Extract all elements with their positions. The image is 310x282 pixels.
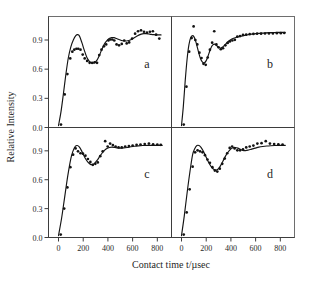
data-point	[201, 151, 204, 154]
data-point	[213, 30, 216, 33]
y-tick-label: 0.6	[33, 65, 43, 74]
data-point	[100, 48, 103, 51]
data-point	[98, 54, 101, 57]
panel-frame-d	[172, 128, 295, 238]
data-point	[89, 161, 92, 164]
data-point	[115, 43, 118, 46]
data-point	[245, 33, 248, 36]
data-point	[123, 39, 126, 42]
data-point	[79, 152, 82, 155]
data-point	[239, 149, 242, 152]
data-point	[242, 148, 245, 151]
data-point	[140, 29, 143, 32]
data-point	[60, 123, 63, 126]
tick-group: 020040060080002004006008000.00.30.60.90.…	[33, 36, 287, 253]
data-point	[155, 33, 158, 36]
data-point	[226, 152, 229, 155]
panel-label-a: a	[144, 57, 150, 71]
y-tick-label: 0.0	[33, 234, 43, 243]
data-point	[79, 48, 82, 51]
data-point	[264, 32, 267, 35]
figure-container: 020040060080002004006008000.00.30.60.90.…	[0, 0, 310, 282]
data-point	[185, 85, 188, 88]
data-point	[252, 144, 255, 147]
data-point	[63, 207, 66, 210]
data-point	[91, 62, 94, 65]
data-point	[159, 144, 162, 147]
data-point	[239, 35, 242, 38]
data-point	[234, 38, 237, 41]
data-point	[228, 147, 231, 150]
data-point	[200, 57, 203, 60]
data-point	[143, 30, 146, 33]
data-point	[128, 41, 131, 44]
data-point	[104, 140, 107, 143]
data-point	[248, 33, 251, 36]
y-tick-label: 0.6	[33, 176, 43, 185]
x-tick-label: 400	[225, 244, 237, 253]
point-group	[59, 25, 285, 236]
data-point	[124, 145, 127, 148]
data-point	[87, 158, 90, 161]
y-tick-label: 0.9	[33, 147, 43, 156]
data-point	[185, 211, 188, 214]
data-point	[206, 56, 209, 59]
data-point	[93, 61, 96, 64]
data-point	[152, 143, 155, 146]
data-point	[82, 152, 85, 155]
data-point	[81, 53, 84, 56]
data-point	[74, 147, 77, 150]
data-point	[245, 146, 248, 149]
data-point	[252, 33, 255, 36]
data-point	[188, 50, 191, 53]
x-axis-title: Contact time t/µsec	[132, 259, 211, 270]
data-point	[231, 145, 234, 148]
data-point	[128, 145, 131, 148]
data-point	[109, 142, 112, 145]
data-point	[117, 146, 120, 149]
data-point	[196, 149, 199, 152]
x-tick-label: 400	[102, 244, 114, 253]
data-point	[148, 142, 151, 145]
data-point	[182, 233, 185, 236]
data-point	[146, 31, 149, 34]
data-point	[248, 145, 251, 148]
data-point	[211, 41, 214, 44]
data-point	[236, 35, 239, 38]
data-point	[120, 146, 123, 149]
data-point	[276, 32, 279, 35]
data-point	[96, 62, 99, 65]
data-point	[72, 153, 75, 156]
data-point	[125, 42, 128, 45]
y-tick-label: 0.0	[33, 124, 43, 133]
data-point	[83, 57, 86, 60]
data-point	[118, 44, 121, 47]
x-tick-label: 200	[200, 244, 212, 253]
data-point	[264, 140, 267, 143]
data-point	[131, 144, 134, 147]
x-tick-label: 0	[180, 244, 184, 253]
data-point	[106, 145, 109, 148]
data-point	[152, 30, 155, 33]
data-point	[273, 143, 276, 146]
data-point	[233, 147, 236, 150]
data-point	[209, 48, 212, 51]
data-point	[222, 47, 225, 50]
data-point	[112, 144, 115, 147]
panel-frame-a	[49, 17, 172, 128]
data-point	[218, 167, 221, 170]
fit-curve-c	[59, 145, 163, 235]
x-tick-label: 200	[77, 244, 89, 253]
data-point	[94, 162, 97, 165]
data-point	[188, 188, 191, 191]
data-point	[156, 143, 159, 146]
data-point	[131, 37, 134, 40]
multi-panel-chart: 020040060080002004006008000.00.30.60.90.…	[0, 0, 310, 282]
data-point	[281, 143, 284, 146]
data-point	[204, 154, 207, 157]
data-point	[260, 142, 263, 145]
data-point	[226, 42, 229, 45]
x-tick-label: 600	[250, 244, 262, 253]
x-tick-label: 600	[127, 244, 139, 253]
data-point	[84, 154, 87, 157]
